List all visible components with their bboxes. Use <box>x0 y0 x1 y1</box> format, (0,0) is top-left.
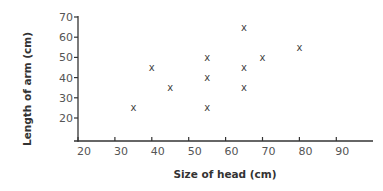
y-tick-label: 50 <box>59 51 73 64</box>
y-tick-label: 20 <box>59 112 73 125</box>
data-point-x-marker: x <box>204 52 210 63</box>
data-point-x-marker: x <box>204 72 210 83</box>
x-tick-label: 80 <box>298 145 312 158</box>
data-point-x-marker: x <box>149 62 155 73</box>
data-point-x-marker: x <box>241 22 247 33</box>
x-tick-label: 40 <box>151 145 165 158</box>
axes <box>74 16 373 142</box>
y-tick-label: 30 <box>59 92 73 105</box>
x-tick-label: 90 <box>335 145 349 158</box>
x-axis-ticks: 2030405060708090 <box>77 137 349 158</box>
x-tick-label: 70 <box>262 145 276 158</box>
data-point-x-marker: x <box>296 42 302 53</box>
data-point-x-marker: x <box>204 102 210 113</box>
data-point-x-marker: x <box>241 82 247 93</box>
x-tick-label: 30 <box>114 145 128 158</box>
y-axis-label: Length of arm (cm) <box>21 32 33 146</box>
x-tick-label: 50 <box>188 145 202 158</box>
x-axis-label: Size of head (cm) <box>173 168 276 180</box>
scatter-chart: 2030405060708090 203040506070 xxxxxxxxxx… <box>0 0 383 191</box>
data-point-x-marker: x <box>241 62 247 73</box>
data-point-x-marker: x <box>130 102 136 113</box>
y-tick-label: 70 <box>59 11 73 24</box>
data-points: xxxxxxxxxxx <box>130 22 302 114</box>
y-tick-label: 60 <box>59 31 73 44</box>
x-tick-label: 20 <box>77 145 91 158</box>
y-axis-ticks: 203040506070 <box>59 11 78 125</box>
data-point-x-marker: x <box>167 82 173 93</box>
data-point-x-marker: x <box>260 52 266 63</box>
x-tick-label: 60 <box>225 145 239 158</box>
y-tick-label: 40 <box>59 72 73 85</box>
